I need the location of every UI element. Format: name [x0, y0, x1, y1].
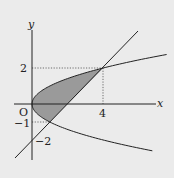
graph-svg: y x O 4 2 −1 −2 — [0, 0, 182, 178]
y-tick-neg2-label: −2 — [35, 135, 51, 148]
y-axis-label: y — [27, 18, 35, 31]
x-tick-4-label: 4 — [99, 107, 106, 120]
diagram-canvas: y x O 4 2 −1 −2 — [0, 0, 182, 178]
line-curve — [15, 31, 138, 158]
shaded-region — [32, 68, 103, 122]
x-axis-label: x — [157, 97, 164, 110]
y-tick-neg1-label: −1 — [14, 117, 30, 130]
y-tick-2-label: 2 — [20, 62, 27, 75]
